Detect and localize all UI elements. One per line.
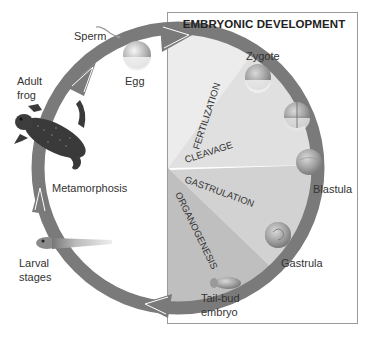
egg-icon bbox=[123, 41, 151, 71]
label-larval-line2: stages bbox=[19, 271, 51, 284]
diagram-graphics: FERTILIZATION CLEAVAGE GASTRULATION ORGA… bbox=[0, 0, 370, 339]
tailbud-embryo-icon bbox=[210, 277, 241, 289]
label-blastula: Blastula bbox=[313, 183, 352, 196]
embryonic-development-title: EMBRYONIC DEVELOPMENT bbox=[172, 18, 356, 30]
label-egg: Egg bbox=[125, 75, 145, 88]
tadpole-icon bbox=[36, 237, 112, 249]
label-tailbud-line2: embryo bbox=[201, 306, 238, 319]
label-tailbud-line1: Tail-bud bbox=[201, 292, 240, 305]
label-adult-line2: frog bbox=[17, 89, 36, 102]
label-zygote: Zygote bbox=[246, 50, 280, 63]
cleavage-embryo-icon bbox=[284, 102, 310, 131]
gastrula-icon bbox=[265, 222, 291, 248]
label-sperm: Sperm bbox=[74, 30, 106, 43]
label-gastrula: Gastrula bbox=[281, 257, 323, 270]
label-adult-line1: Adult bbox=[17, 75, 42, 88]
zygote-icon bbox=[245, 64, 271, 93]
label-metamorphosis: Metamorphosis bbox=[52, 182, 127, 195]
frog-life-cycle-diagram: FERTILIZATION CLEAVAGE GASTRULATION ORGA… bbox=[0, 0, 370, 339]
blastula-icon bbox=[296, 149, 322, 175]
label-larval-line1: Larval bbox=[19, 257, 49, 270]
